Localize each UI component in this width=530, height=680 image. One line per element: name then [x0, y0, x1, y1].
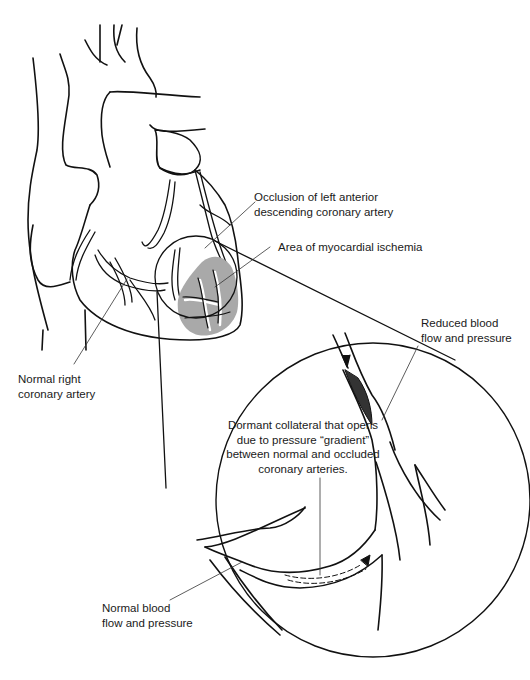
label-right-coronary-line2: coronary artery — [18, 387, 95, 402]
label-occlusion-line2: descending coronary artery — [254, 205, 393, 220]
label-right-coronary-line1: Normal right — [18, 372, 95, 387]
magnifier-connector-left — [157, 292, 166, 488]
label-collateral-line3: between normal and occluded — [203, 447, 403, 462]
label-collateral: Dormant collateral that opens due to pre… — [203, 418, 403, 476]
label-collateral-line4: coronary arteries. — [203, 462, 403, 477]
flow-arrow-down — [342, 355, 350, 367]
blockage — [345, 370, 372, 425]
label-collateral-line2: due to pressure “gradient” — [203, 433, 403, 448]
label-right-coronary: Normal right coronary artery — [18, 372, 95, 401]
label-reduced-flow-line2: flow and pressure — [421, 331, 512, 346]
label-ischemia-line1: Area of myocardial ischemia — [278, 240, 422, 255]
label-normal-flow: Normal blood flow and pressure — [102, 601, 193, 630]
magnifier-connector-right — [215, 241, 455, 360]
flow-arrow-up — [361, 555, 370, 566]
label-occlusion-line1: Occlusion of left anterior — [254, 190, 393, 205]
label-reduced-flow-line1: Reduced blood — [421, 316, 512, 331]
label-normal-flow-line2: flow and pressure — [102, 616, 193, 631]
label-occlusion: Occlusion of left anterior descending co… — [254, 190, 393, 219]
label-normal-flow-line1: Normal blood — [102, 601, 193, 616]
label-reduced-flow: Reduced blood flow and pressure — [421, 316, 512, 345]
magnified-vessels — [197, 333, 445, 635]
label-collateral-line1: Dormant collateral that opens — [203, 418, 403, 433]
label-ischemia: Area of myocardial ischemia — [278, 240, 422, 255]
